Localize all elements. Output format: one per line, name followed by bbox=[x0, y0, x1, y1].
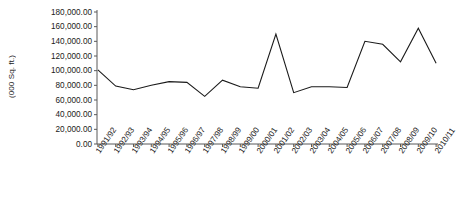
line-chart: (000 Sq. ft.) 180,000.00160,000.00140,00… bbox=[0, 0, 456, 203]
x-axis-tick-labels: 1991/921992/931993/941994/951995/961996/… bbox=[0, 0, 456, 203]
